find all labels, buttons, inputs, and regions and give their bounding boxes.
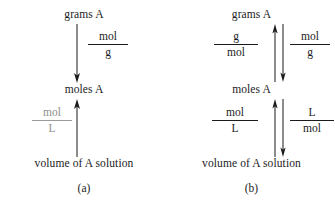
fraction-denominator: L [32,121,72,135]
arrow-volume-to-moles-up [271,99,279,157]
panel-a: grams A mol g moles A mol L volume [0,0,168,200]
fraction-numerator: mol [32,106,72,120]
conversion-factor-mol-per-g: mol g [88,30,128,59]
node-volume-a-solution: volume of A solution [0,157,168,170]
stoichiometry-conversion-diagram: grams A mol g moles A mol L volume [0,0,335,200]
arrow-volume-to-moles-up [72,99,82,157]
fraction-denominator: g [88,45,128,59]
arrow-moles-to-grams-up [271,24,279,82]
node-moles-a: moles A [0,83,168,96]
fraction-numerator: mol [88,30,128,44]
arrow-grams-to-moles-down [279,24,287,82]
fraction-denominator: g [290,45,330,59]
panel-caption-b: (b) [168,182,335,194]
node-grams-a: grams A [0,8,168,21]
arrow-moles-to-volume-down [279,99,287,157]
fraction-denominator: L [212,121,258,135]
fraction-denominator: mol [290,121,334,135]
arrow-grams-to-moles-down [72,24,82,84]
panel-caption-a: (a) [0,182,168,194]
conversion-factor-mol-per-g: mol g [290,30,330,59]
conversion-factor-mol-per-l: mol L [212,106,258,135]
fraction-numerator: mol [290,30,330,44]
conversion-factor-mol-per-l: mol L [32,106,72,135]
node-grams-a: grams A [168,8,335,21]
fraction-numerator: mol [212,106,258,120]
node-volume-a-solution: volume of A solution [168,157,335,170]
fraction-numerator: L [290,106,334,120]
fraction-denominator: mol [214,45,258,59]
conversion-factor-g-per-mol: g mol [214,30,258,59]
fraction-numerator: g [214,30,258,44]
node-moles-a: moles A [168,83,335,96]
conversion-factor-l-per-mol: L mol [290,106,334,135]
panel-b: grams A g mol mol g moles A [168,0,335,200]
